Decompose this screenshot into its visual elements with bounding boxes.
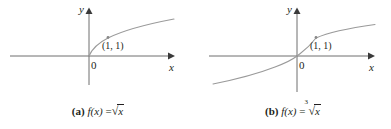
y-axis-label: y [79, 4, 84, 15]
panel-b: y x 0 (1, 1) (b) f(x) =3√x [195, 0, 391, 129]
caption-b: (b) f(x) =3√x [195, 104, 391, 118]
caption-a: (a) f(x) =√x [0, 104, 196, 118]
point-marker-1-1 [315, 36, 318, 39]
point-marker-1-1 [107, 36, 110, 39]
caption-a-radicand: x [117, 104, 124, 117]
caption-a-function: f(x) [87, 105, 102, 117]
caption-b-radical: 3√x [305, 104, 320, 118]
point-label-1-1: (1, 1) [102, 41, 124, 51]
x-axis-arrow-icon [368, 53, 375, 60]
plot-b: y x 0 (1, 1) [195, 0, 391, 100]
panel-a: y x 0 (1, 1) (a) f(x) =√x [0, 0, 196, 129]
cbrt-curve [213, 25, 375, 85]
caption-b-radicand: x [314, 104, 321, 117]
plot-b-svg [195, 0, 391, 100]
caption-a-tag: (a) [72, 105, 85, 117]
point-label-1-1: (1, 1) [310, 41, 332, 51]
plot-a-svg [0, 0, 196, 100]
plot-a: y x 0 (1, 1) [0, 0, 196, 100]
caption-b-function: f(x) [281, 105, 296, 117]
origin-label: 0 [299, 60, 305, 71]
origin-label: 0 [91, 60, 97, 71]
x-axis-label: x [169, 62, 174, 73]
x-axis-arrow-icon [168, 53, 175, 60]
caption-b-tag: (b) [265, 105, 278, 117]
y-axis-label: y [287, 4, 292, 15]
radical-index: 3 [304, 99, 308, 107]
caption-a-radical: √x [112, 104, 124, 118]
y-axis-arrow-icon [294, 8, 301, 15]
x-axis-label: x [369, 62, 374, 73]
y-axis-arrow-icon [86, 8, 93, 15]
figure-root: y x 0 (1, 1) (a) f(x) =√x y [0, 0, 391, 129]
